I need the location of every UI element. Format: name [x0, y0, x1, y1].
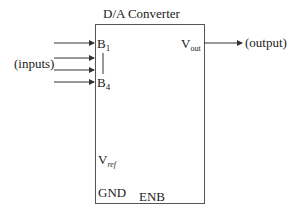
inputs-label: (inputs) — [14, 56, 54, 72]
pin-b1: B1 — [97, 36, 110, 53]
pin-b4: B4 — [97, 75, 110, 92]
output-label: (output) — [245, 35, 287, 51]
connection-lines — [0, 0, 292, 220]
pin-vout: Vout — [181, 36, 201, 53]
pin-enb: ENB — [139, 189, 165, 205]
pin-gnd: GND — [98, 185, 126, 201]
pin-vref: Vref — [98, 152, 116, 169]
